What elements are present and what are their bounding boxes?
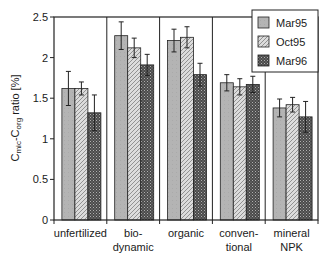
bar-mar95: [115, 36, 128, 220]
y-tick-label: 1: [42, 133, 48, 145]
y-tick-label: 1.5: [33, 92, 48, 104]
bar-oct95: [75, 88, 88, 220]
svg-text:Oct95: Oct95: [276, 36, 305, 48]
category-label: bio-: [124, 227, 143, 239]
category-label: tional: [226, 241, 252, 253]
bar-chart: Cmic-Corg ratio [%] 00.511.522.5 unferti…: [0, 0, 329, 261]
legend: Mar95 Oct95 Mar96: [252, 10, 318, 72]
svg-text:Mar96: Mar96: [276, 55, 307, 67]
bar-oct95: [233, 87, 246, 220]
bar-mar96: [194, 75, 207, 220]
svg-text:Mar95: Mar95: [276, 17, 307, 29]
y-axis-label: Cmic-Corg ratio [%]: [9, 75, 23, 162]
bar-mar95: [273, 108, 286, 220]
bar-oct95: [181, 37, 194, 220]
legend-item-oct95: Oct95: [258, 36, 305, 48]
category-label: organic: [168, 227, 205, 239]
legend-item-mar96: Mar96: [258, 55, 307, 67]
legend-swatch-mar96: [258, 55, 269, 66]
category-label: conven-: [219, 227, 258, 239]
y-tick-label: 2: [42, 52, 48, 64]
legend-swatch-oct95: [258, 36, 269, 47]
category-label: dynamic: [113, 241, 154, 253]
bar-mar96: [246, 84, 259, 220]
bar-oct95: [286, 105, 299, 220]
category-label: unfertilized: [54, 227, 107, 239]
category-labels: unfertilizedbio-dynamicorganicconven-tio…: [54, 227, 310, 253]
y-axis-ticks: 00.511.522.5: [33, 11, 54, 226]
y-tick-label: 0: [42, 214, 48, 226]
y-tick-label: 0.5: [33, 173, 48, 185]
category-label: NPK: [280, 241, 303, 253]
legend-item-mar95: Mar95: [258, 17, 307, 29]
y-tick-label: 2.5: [33, 11, 48, 23]
bar-oct95: [128, 48, 141, 220]
bar-mar96: [141, 65, 154, 220]
legend-swatch-mar95: [258, 17, 269, 28]
bar-mar95: [168, 41, 181, 220]
bar-mar95: [220, 83, 233, 220]
bar-mar95: [62, 88, 75, 220]
svg-text:Cmic-Corg ratio [%]: Cmic-Corg ratio [%]: [9, 75, 23, 162]
category-label: mineral: [274, 227, 310, 239]
